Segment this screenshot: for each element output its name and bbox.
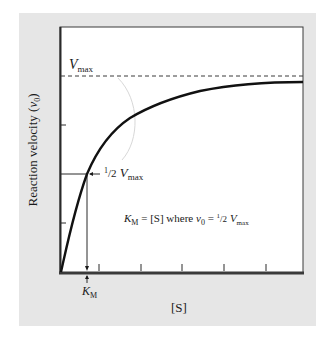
- y-label-close: ): [25, 93, 40, 97]
- y-label-v: v: [25, 102, 40, 108]
- eq-mid: = [S] where: [138, 212, 196, 224]
- half-vmax-label: 1/2 Vmax: [104, 165, 143, 182]
- half-v: V: [120, 165, 128, 180]
- km-k: K: [82, 284, 90, 298]
- eq-vmax-v: V: [227, 212, 236, 224]
- km-sub: M: [90, 291, 97, 300]
- vmax-label-sub: max: [78, 64, 94, 74]
- y-label-text: Reaction velocity (: [25, 108, 40, 207]
- eq-equals: =: [205, 212, 217, 224]
- y-label-sub: 0: [33, 98, 42, 102]
- vmax-label: Vmax: [69, 57, 93, 74]
- x-axis-label: [S]: [171, 300, 187, 316]
- km-axis-label: KM: [82, 284, 97, 300]
- km-arrowhead-up: [85, 275, 89, 279]
- vmax-label-v: V: [69, 57, 78, 72]
- half-sub: max: [128, 172, 144, 182]
- y-axis-label: Reaction velocity (v0): [25, 93, 42, 206]
- half-den: /2: [108, 167, 117, 179]
- michaelis-menten-plot: [0, 0, 332, 345]
- eq-vmax-sub: max: [237, 219, 249, 227]
- km-definition-annotation: KM = [S] where v0 = 1/2 Vmax: [124, 212, 249, 227]
- plot-area: [60, 27, 303, 273]
